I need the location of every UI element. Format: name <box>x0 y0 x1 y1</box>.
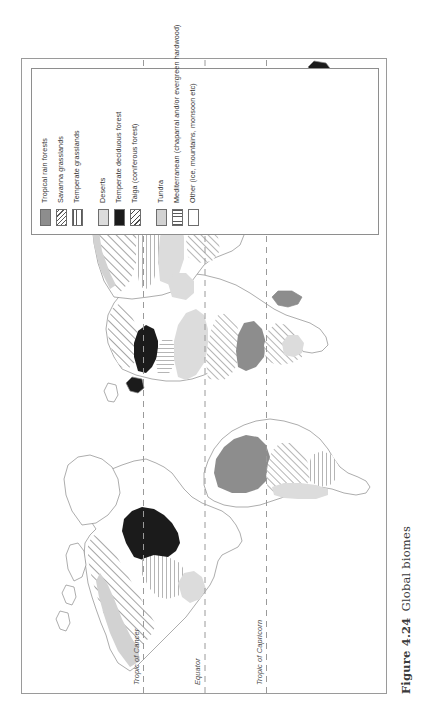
legend-item-temperate-grasslands: Temperate grasslands <box>72 76 83 226</box>
legend-label-deserts: Deserts <box>99 178 107 203</box>
madagascar-outline <box>272 291 302 307</box>
arctic-island-small-1 <box>62 585 76 605</box>
legend-group-1: Tropical rain forests Savanna grasslands… <box>40 76 83 226</box>
legend-label-temperate-deciduous-forest: Temperate deciduous forest <box>115 112 123 203</box>
rotated-figure-wrapper: Tropic of Cancer Equator Tropic of Capri… <box>21 22 425 694</box>
iceland-outline <box>104 383 118 402</box>
legend-group-3: Tundra Mediterranean (chaparral and/or e… <box>156 76 199 226</box>
swatch-tropical-rain-forests <box>40 209 51 226</box>
swatch-temperate-deciduous-forest <box>114 209 125 226</box>
legend-item-savanna-grasslands: Savanna grasslands <box>56 76 67 226</box>
equator-label: Equator <box>193 658 202 685</box>
legend-item-taiga: Taiga (coniferous forest) <box>130 76 141 226</box>
swatch-savanna-grasslands <box>56 209 67 226</box>
legend-item-tropical-rain-forests: Tropical rain forests <box>40 76 51 226</box>
swatch-temperate-grasslands <box>72 209 83 226</box>
swatch-other <box>188 209 199 226</box>
legend-label-tropical-rain-forests: Tropical rain forests <box>41 138 49 203</box>
legend-label-tundra: Tundra <box>157 180 165 203</box>
legend-label-mediterranean: Mediterranean (chaparral and/or evergree… <box>173 25 181 204</box>
legend-item-deserts: Deserts <box>98 76 109 226</box>
figure-page: Tropic of Cancer Equator Tropic of Capri… <box>0 0 446 716</box>
uk-outline <box>126 377 144 393</box>
arctic-island-small-2 <box>56 611 70 631</box>
legend-label-other: Other (ice, mountains, monsoon etc) <box>189 83 197 203</box>
figure-frame: Tropic of Cancer Equator Tropic of Capri… <box>21 58 387 694</box>
arctic-islands <box>66 543 86 581</box>
swatch-deserts <box>98 209 109 226</box>
legend-item-other: Other (ice, mountains, monsoon etc) <box>188 76 199 226</box>
legend-item-mediterranean: Mediterranean (chaparral and/or evergree… <box>172 76 183 226</box>
tropic-of-cancer-label: Tropic of Cancer <box>132 629 141 685</box>
map-legend: Tropical rain forests Savanna grasslands… <box>31 68 379 235</box>
figure-caption: Figure 4.24Global biomes <box>399 58 413 694</box>
legend-item-tundra: Tundra <box>156 76 167 226</box>
legend-item-temperate-deciduous-forest: Temperate deciduous forest <box>114 76 125 226</box>
legend-label-temperate-grasslands: Temperate grasslands <box>73 130 81 203</box>
legend-group-2: Deserts Temperate deciduous forest Taiga… <box>98 76 141 226</box>
swatch-mediterranean <box>172 209 183 226</box>
legend-label-savanna-grasslands: Savanna grasslands <box>57 136 65 203</box>
figure-caption-text: Global biomes <box>399 526 413 612</box>
legend-label-taiga: Taiga (coniferous forest) <box>131 123 139 203</box>
swatch-taiga <box>130 209 141 226</box>
swatch-tundra <box>156 209 167 226</box>
tropic-of-capricorn-label: Tropic of Capricorn <box>255 620 264 685</box>
figure-caption-number: Figure 4.24 <box>399 617 413 694</box>
